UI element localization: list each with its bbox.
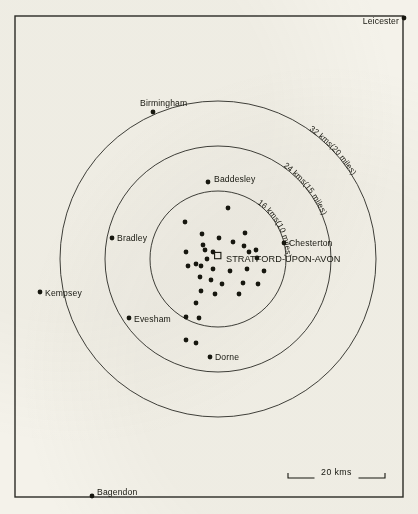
place-dot xyxy=(110,236,115,241)
site-dot xyxy=(199,289,204,294)
place-label: Birmingham xyxy=(140,98,187,108)
site-dot xyxy=(254,248,259,253)
place-marker-baddesley: Baddesley xyxy=(206,174,256,184)
place-label: Baddesley xyxy=(214,174,256,184)
scale-bar-label: 20 kms xyxy=(321,467,352,477)
site-dot xyxy=(241,281,246,286)
site-dot xyxy=(211,267,216,272)
centre-place-marker: STRATFORD-UPON-AVON xyxy=(215,252,341,264)
site-dot xyxy=(262,269,267,274)
place-marker-bagendon: Bagendon xyxy=(90,487,138,498)
centre-open-square-icon xyxy=(215,252,221,258)
site-dot xyxy=(184,338,189,343)
site-dot xyxy=(242,244,247,249)
scale-bar: 20 kms xyxy=(288,467,385,481)
site-dot xyxy=(256,282,261,287)
site-dot xyxy=(237,292,242,297)
place-label: Evesham xyxy=(134,314,171,324)
site-dot xyxy=(197,316,202,321)
place-marker-evesham: Evesham xyxy=(127,314,171,324)
site-dot xyxy=(217,236,222,241)
place-marker-dorne: Dorne xyxy=(208,352,240,362)
site-dot xyxy=(183,220,188,225)
distance-ring-label-2: 24 kms(15 miles) xyxy=(282,161,329,217)
named-places-group: LeicesterBirminghamBaddesleyBradleyChest… xyxy=(38,16,407,499)
place-marker-bradley: Bradley xyxy=(110,233,148,243)
centre-place-label: STRATFORD-UPON-AVON xyxy=(226,254,340,264)
place-dot xyxy=(282,241,287,246)
place-marker-birmingham: Birmingham xyxy=(140,98,187,114)
place-label: Kempsey xyxy=(45,288,82,298)
site-dot xyxy=(213,292,218,297)
site-dots-group xyxy=(183,206,267,346)
place-label: Bagendon xyxy=(97,487,137,497)
place-dot xyxy=(127,316,132,321)
site-dot xyxy=(209,278,214,283)
place-dot xyxy=(206,180,211,185)
site-dot xyxy=(194,262,199,267)
place-dot xyxy=(402,16,407,21)
distribution-map: 16 kms(10 miles)24 kms(15 miles)32 kms(2… xyxy=(0,0,418,514)
place-dot xyxy=(151,110,156,115)
site-dot xyxy=(203,248,208,253)
site-dot xyxy=(194,301,199,306)
map-canvas: 16 kms(10 miles)24 kms(15 miles)32 kms(2… xyxy=(0,0,418,514)
site-dot xyxy=(199,264,204,269)
distance-ring-label-3: 32 kms(20 miles) xyxy=(308,124,358,177)
site-dot xyxy=(194,341,199,346)
site-dot xyxy=(184,250,189,255)
distance-ring-label-1: 16 kms(10 miles) xyxy=(256,198,293,258)
site-dot xyxy=(201,243,206,248)
place-label: Leicester xyxy=(363,16,399,26)
place-label: Chesterton xyxy=(289,238,333,248)
place-marker-chesterton: Chesterton xyxy=(282,238,333,248)
place-marker-leicester: Leicester xyxy=(363,16,407,26)
place-label: Dorne xyxy=(215,352,239,362)
place-label: Bradley xyxy=(117,233,148,243)
site-dot xyxy=(220,282,225,287)
site-dot xyxy=(228,269,233,274)
site-dot xyxy=(243,231,248,236)
place-dot xyxy=(208,355,213,360)
place-marker-kempsey: Kempsey xyxy=(38,288,83,298)
map-frame xyxy=(15,16,403,497)
site-dot xyxy=(184,315,189,320)
site-dot xyxy=(231,240,236,245)
site-dot xyxy=(200,232,205,237)
place-dot xyxy=(38,290,43,295)
place-dot xyxy=(90,494,95,499)
site-dot xyxy=(186,264,191,269)
site-dot xyxy=(245,267,250,272)
site-dot xyxy=(198,275,203,280)
site-dot xyxy=(226,206,231,211)
site-dot xyxy=(205,257,210,262)
